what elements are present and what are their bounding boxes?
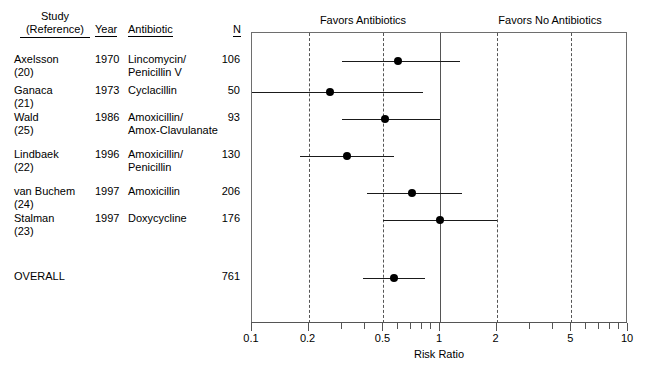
null-effect-line	[440, 33, 441, 323]
x-minor-tick	[552, 323, 553, 329]
plot-area	[251, 32, 627, 322]
study-name: Axelsson	[14, 53, 92, 66]
table-row-n: 50	[200, 84, 240, 97]
point-estimate-marker	[381, 115, 389, 123]
x-minor-tick	[618, 323, 619, 329]
antibiotic-line-2: Amox-Clavulanate	[128, 124, 228, 137]
point-estimate-marker	[326, 88, 334, 96]
gridline-2	[497, 33, 498, 323]
x-tick-1	[439, 323, 440, 331]
point-estimate-marker	[390, 274, 398, 282]
study-name: Lindbaek	[14, 148, 92, 161]
table-row-n: 761	[200, 270, 240, 283]
table-row-n: 93	[200, 111, 240, 124]
x-minor-tick	[585, 323, 586, 329]
x-tick-0.1	[251, 323, 252, 331]
study-reference: (25)	[14, 124, 92, 137]
table-row-study: Ganaca(21)	[14, 84, 92, 110]
study-reference: (22)	[14, 161, 92, 174]
antibiotic-line-2: Penicillin	[128, 161, 228, 174]
x-tick-0.2	[308, 323, 309, 331]
study-name: Wald	[14, 111, 92, 124]
x-axis-title: Risk Ratio	[251, 348, 627, 360]
favors-antibiotics-label: Favors Antibiotics	[268, 14, 458, 26]
table-row-n: 106	[200, 53, 240, 66]
x-tick-label-0.1: 0.1	[243, 332, 258, 344]
x-minor-tick	[341, 323, 342, 329]
table-row-study: Wald(25)	[14, 111, 92, 137]
x-tick-label-0.2: 0.2	[300, 332, 315, 344]
point-estimate-marker	[436, 216, 444, 224]
column-header-year: Year	[95, 23, 117, 37]
antibiotic-line-2: Penicillin V	[128, 66, 228, 79]
x-tick-label-10: 10	[621, 332, 633, 344]
study-reference: (20)	[14, 66, 92, 79]
table-row-study: van Buchem(24)	[14, 185, 92, 211]
confidence-interval-line	[342, 119, 440, 120]
table-row-year: 1997	[95, 185, 125, 198]
x-tick-label-5: 5	[567, 332, 573, 344]
forest-plot-figure: Study (Reference) Year Antibiotic N Axel…	[0, 0, 653, 370]
study-reference: (23)	[14, 225, 92, 238]
table-row-year: 1973	[95, 84, 125, 97]
x-minor-tick	[598, 323, 599, 329]
table-row-study: Axelsson(20)	[14, 53, 92, 79]
gridline-5	[571, 33, 572, 323]
x-tick-2	[496, 323, 497, 331]
table-row-n: 176	[200, 212, 240, 225]
table-row-year: 1996	[95, 148, 125, 161]
point-estimate-marker	[394, 57, 402, 65]
column-header-study-line1: Study	[20, 10, 90, 23]
table-row-n: 206	[200, 185, 240, 198]
column-header-study-line2: (Reference)	[20, 23, 90, 38]
study-name: Stalman	[14, 212, 92, 225]
x-minor-tick	[609, 323, 610, 329]
x-minor-tick	[397, 323, 398, 329]
study-name: Ganaca	[14, 84, 92, 97]
x-tick-label-0.5: 0.5	[375, 332, 390, 344]
point-estimate-marker	[408, 189, 416, 197]
x-minor-tick	[364, 323, 365, 329]
table-row-n: 130	[200, 148, 240, 161]
x-minor-tick	[430, 323, 431, 329]
point-estimate-marker	[343, 152, 351, 160]
study-reference: (24)	[14, 198, 92, 211]
confidence-interval-line	[252, 92, 423, 93]
study-name: OVERALL	[14, 270, 92, 283]
gridline-0.5	[383, 33, 384, 323]
study-table: Study (Reference) Year Antibiotic N Axel…	[0, 0, 251, 370]
study-reference: (21)	[14, 97, 92, 110]
column-header-n: N	[233, 23, 241, 37]
x-tick-0.5	[382, 323, 383, 331]
x-minor-tick	[529, 323, 530, 329]
x-minor-tick	[421, 323, 422, 329]
table-row-study: OVERALL	[14, 270, 92, 283]
gridline-0.2	[309, 33, 310, 323]
x-axis: 0.10.20.512510	[251, 322, 627, 323]
x-tick-5	[570, 323, 571, 331]
table-row-study: Stalman(23)	[14, 212, 92, 238]
favors-no-antibiotics-label: Favors No Antibiotics	[455, 14, 645, 26]
table-row-year: 1997	[95, 212, 125, 225]
column-header-study: Study (Reference)	[20, 10, 90, 38]
column-header-antibiotic: Antibiotic	[128, 23, 173, 37]
x-tick-label-1: 1	[436, 332, 442, 344]
table-row-year: 1986	[95, 111, 125, 124]
study-name: van Buchem	[14, 185, 92, 198]
x-tick-10	[627, 323, 628, 331]
table-row-study: Lindbaek(22)	[14, 148, 92, 174]
x-tick-label-2: 2	[493, 332, 499, 344]
x-minor-tick	[410, 323, 411, 329]
table-row-year: 1970	[95, 53, 125, 66]
